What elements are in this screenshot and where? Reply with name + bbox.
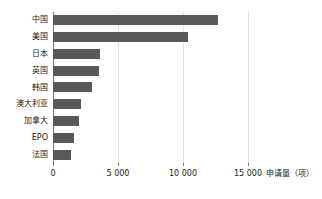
category-label: 中国 [0, 15, 48, 25]
bar [53, 116, 79, 126]
tick-label: 15 000 [225, 169, 271, 179]
bar-row [53, 146, 71, 163]
bar [53, 150, 71, 160]
category-label: 加拿大 [0, 116, 48, 126]
plot-area [53, 12, 248, 163]
bar [53, 82, 92, 92]
bar [53, 32, 188, 42]
bar-row [53, 29, 188, 46]
bar-row [53, 12, 218, 29]
bar [53, 15, 218, 25]
category-label: 英国 [0, 66, 48, 76]
tick-mark [248, 163, 249, 166]
category-label: 日本 [0, 49, 48, 59]
category-label: 美国 [0, 32, 48, 42]
tick-label: 10 000 [160, 169, 206, 179]
value-axis-title: 申请量（项） [266, 169, 314, 179]
category-label: 澳大利亚 [0, 99, 48, 109]
bar-row [53, 113, 79, 130]
category-label: 法国 [0, 150, 48, 160]
bar-row [53, 46, 100, 63]
bar-row [53, 79, 92, 96]
bar-row [53, 96, 81, 113]
bar-row [53, 129, 74, 146]
tick-mark [183, 163, 184, 166]
category-label: EPO [0, 133, 48, 143]
bar [53, 133, 74, 143]
bar-row [53, 62, 99, 79]
tick-mark [118, 163, 119, 166]
gridline [248, 12, 249, 163]
category-label: 韩国 [0, 83, 48, 93]
bar [53, 66, 99, 76]
tick-mark [53, 163, 54, 166]
tick-label: 5 000 [95, 169, 141, 179]
tick-label: 0 [30, 169, 76, 179]
bar-chart: 中国美国日本英国韩国澳大利亚加拿大EPO法国 05 00010 00015 00… [0, 0, 322, 199]
bar [53, 49, 100, 59]
bar [53, 99, 81, 109]
